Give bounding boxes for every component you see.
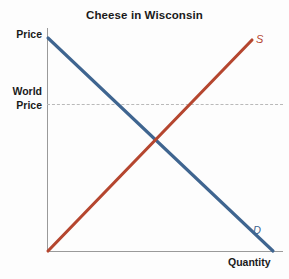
supply-curve-label: S <box>256 33 263 45</box>
supply-curve <box>48 40 252 251</box>
curve-layer <box>0 0 289 279</box>
demand-curve <box>48 38 273 251</box>
demand-curve-label: D <box>253 224 261 236</box>
chart-figure: Cheese in Wisconsin Price World Price Qu… <box>0 0 289 279</box>
